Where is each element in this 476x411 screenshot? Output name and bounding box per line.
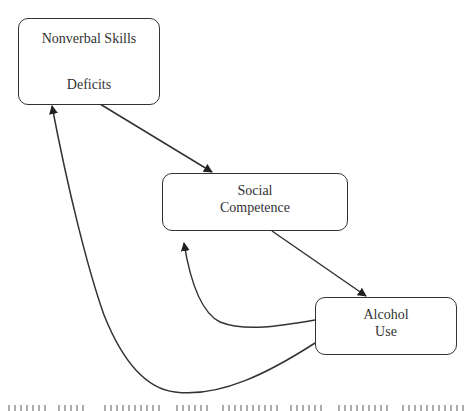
edge-au-to-sc — [184, 243, 315, 327]
node-label-line: Alcohol — [316, 306, 456, 323]
edge-nvsd-to-sc — [100, 104, 212, 172]
diagram-canvas: Nonverbal Skills Deficits Social Compete… — [0, 0, 476, 411]
node-social-competence: Social Competence — [162, 173, 348, 231]
node-label-line: Use — [316, 323, 456, 340]
cropped-caption-text — [0, 402, 476, 411]
edge-sc-to-au — [272, 231, 366, 296]
node-label-line: Deficits — [19, 76, 159, 93]
node-label-line: Competence — [163, 199, 347, 216]
node-label-line: Nonverbal Skills — [19, 30, 159, 47]
edge-au-to-nvsd — [52, 106, 315, 393]
node-nonverbal-skills-deficits: Nonverbal Skills Deficits — [18, 18, 160, 105]
node-label-line: Social — [163, 182, 347, 199]
node-alcohol-use: Alcohol Use — [315, 297, 457, 355]
